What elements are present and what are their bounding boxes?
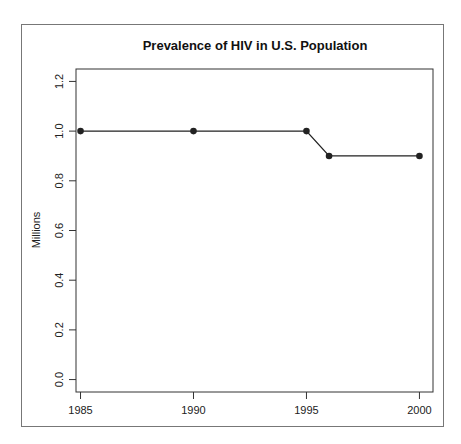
y-tick-label: 1.0	[53, 123, 65, 138]
x-axis: 1985199019952000	[68, 392, 431, 416]
y-axis-label: Millions	[30, 211, 42, 248]
chart-title: Prevalence of HIV in U.S. Population	[143, 38, 368, 53]
y-tick-label: 0.0	[53, 372, 65, 387]
x-tick-label: 1995	[294, 404, 318, 416]
data-point	[190, 128, 197, 135]
x-tick-label: 1990	[181, 404, 205, 416]
y-tick-label: 1.2	[53, 74, 65, 89]
x-tick-label: 1985	[68, 404, 92, 416]
data-point	[77, 128, 84, 135]
data-point	[416, 153, 423, 160]
series-line	[81, 131, 420, 156]
y-tick-label: 0.2	[53, 322, 65, 337]
y-axis: 0.00.20.40.60.81.01.2	[53, 74, 76, 387]
y-tick-label: 0.4	[53, 273, 65, 288]
data-point	[303, 128, 310, 135]
chart: Prevalence of HIV in U.S. Population 198…	[0, 0, 461, 444]
plot-area	[76, 69, 433, 392]
y-tick-label: 0.8	[53, 173, 65, 188]
x-tick-label: 2000	[407, 404, 431, 416]
series-group	[77, 128, 423, 159]
data-point	[326, 153, 333, 160]
y-tick-label: 0.6	[53, 223, 65, 238]
